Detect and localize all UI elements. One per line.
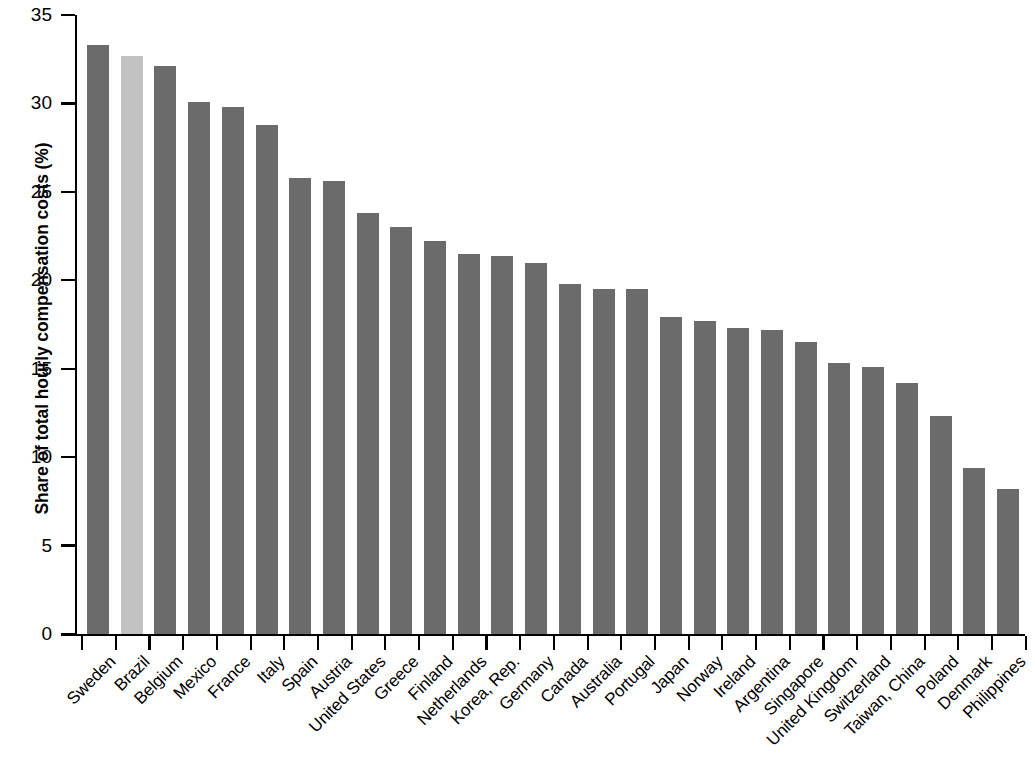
x-axis-tick bbox=[452, 636, 454, 650]
x-axis-tick bbox=[485, 636, 487, 650]
x-axis-tick bbox=[418, 636, 420, 650]
bar-united-kingdom bbox=[828, 363, 850, 634]
x-axis-tick bbox=[351, 636, 353, 650]
bar-netherlands bbox=[458, 254, 480, 634]
bar-italy bbox=[256, 125, 278, 634]
x-axis-tick bbox=[1025, 636, 1027, 650]
x-axis-tick bbox=[384, 636, 386, 650]
bar-mexico bbox=[188, 102, 210, 634]
bar-greece bbox=[390, 227, 412, 634]
x-axis-tick bbox=[216, 636, 218, 650]
bar-sweden bbox=[87, 45, 109, 634]
bars-layer bbox=[0, 15, 1035, 634]
x-axis-tick bbox=[789, 636, 791, 650]
bar-denmark bbox=[963, 468, 985, 634]
x-axis-tick bbox=[317, 636, 319, 650]
x-axis-line bbox=[61, 634, 1025, 636]
bar-spain bbox=[289, 178, 311, 634]
bar-portugal bbox=[626, 289, 648, 634]
bar-united-states bbox=[357, 213, 379, 634]
bar-brazil bbox=[121, 56, 143, 634]
bar-germany bbox=[525, 263, 547, 634]
bar-poland bbox=[930, 416, 952, 634]
x-axis-tick bbox=[856, 636, 858, 650]
bar-philippines bbox=[997, 489, 1019, 634]
x-axis-tick bbox=[755, 636, 757, 650]
x-axis-tick bbox=[553, 636, 555, 650]
x-axis-tick bbox=[822, 636, 824, 650]
bar-singapore bbox=[795, 342, 817, 634]
x-axis-tick bbox=[957, 636, 959, 650]
bar-canada bbox=[559, 284, 581, 634]
bar-argentina bbox=[761, 330, 783, 634]
x-axis-tick bbox=[182, 636, 184, 650]
bar-chart: Share of total hourly compensation costs… bbox=[0, 0, 1035, 767]
x-axis-tick bbox=[721, 636, 723, 650]
x-axis-tick bbox=[924, 636, 926, 650]
x-axis-tick bbox=[688, 636, 690, 650]
bar-switzerland bbox=[862, 367, 884, 634]
x-axis-tick bbox=[250, 636, 252, 650]
bar-finland bbox=[424, 241, 446, 634]
x-axis-tick bbox=[991, 636, 993, 650]
x-axis-tick bbox=[620, 636, 622, 650]
bar-ireland bbox=[727, 328, 749, 634]
x-axis-tick bbox=[519, 636, 521, 650]
x-axis-tick bbox=[81, 636, 83, 650]
bar-austria bbox=[323, 181, 345, 634]
bar-france bbox=[222, 107, 244, 634]
bar-belgium bbox=[154, 66, 176, 634]
x-axis-tick bbox=[283, 636, 285, 650]
x-axis-tick bbox=[587, 636, 589, 650]
x-axis-tick bbox=[890, 636, 892, 650]
bar-japan bbox=[660, 317, 682, 634]
bar-taiwan-china bbox=[896, 383, 918, 634]
bar-norway bbox=[694, 321, 716, 634]
x-axis-tick bbox=[148, 636, 150, 650]
x-axis-tick bbox=[654, 636, 656, 650]
bar-australia bbox=[593, 289, 615, 634]
x-axis-tick bbox=[115, 636, 117, 650]
bar-korea-rep bbox=[491, 256, 513, 634]
